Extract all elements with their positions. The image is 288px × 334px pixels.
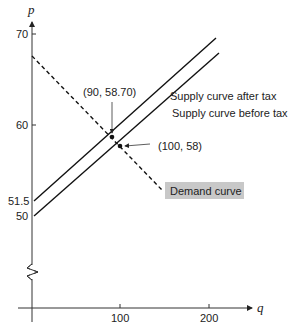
chart: p q 70 60 51.5 50 100 200 (90, 58.70) (1… <box>0 0 288 334</box>
x-tick-200: 200 <box>200 312 218 324</box>
y-tick-50: 50 <box>16 210 28 222</box>
label-supply-before-tax: Supply curve before tax <box>172 107 288 119</box>
x-tick-100: 100 <box>111 312 129 324</box>
y-tick-70: 70 <box>16 28 28 40</box>
y-tick-60: 60 <box>16 119 28 131</box>
point-after-tax <box>110 135 115 140</box>
y-tick-51-5: 51.5 <box>8 195 29 207</box>
label-demand: Demand curve <box>170 185 242 197</box>
supply-after-tax-line <box>34 38 216 201</box>
point-before-tax <box>118 144 123 149</box>
annotation-100-58: (100, 58) <box>158 140 202 152</box>
label-supply-after-tax: Supply curve after tax <box>170 90 277 102</box>
demand-line <box>32 56 162 190</box>
annotation-90-58-70: (90, 58.70) <box>83 86 136 98</box>
y-axis-label: p <box>27 2 35 17</box>
x-axis-label: q <box>257 300 264 315</box>
